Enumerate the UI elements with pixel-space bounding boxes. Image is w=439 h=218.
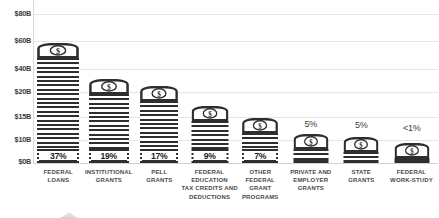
x-axis-label-institutional-grants: INSTITUTIONAL GRANTS [84, 168, 135, 184]
cropped-graphic-artifact [60, 211, 78, 218]
y-axis-tick: $10B [15, 136, 31, 144]
x-label-line: PRIVATE AND [284, 168, 339, 176]
bill-stack [89, 94, 129, 149]
bar-value-label: 9% [191, 149, 228, 163]
bill-stack [37, 58, 79, 149]
svg-text:$: $ [259, 121, 263, 131]
bar-group-federal-work-study[interactable]: <1% $ [387, 0, 438, 164]
x-axis-label-private-and-employer-grants: PRIVATE AND EMPLOYER GRANTS [284, 168, 339, 193]
x-label-line: FEDERAL [235, 176, 286, 184]
bill-stack [293, 149, 328, 160]
y-axis-tick: $15B [15, 113, 31, 121]
x-label-line: FEDERAL [180, 168, 239, 176]
x-label-line: FEDERAL [33, 168, 84, 176]
bar-value-label: 5% [304, 119, 317, 129]
svg-text:$: $ [309, 137, 313, 147]
x-label-line: PROGRAMS [235, 193, 286, 201]
x-label-line: EMPLOYER [284, 176, 339, 184]
bar-value-label: 7% [242, 149, 278, 163]
bar-group-federal-education-tax-credits[interactable]: $ 9% [185, 0, 236, 164]
x-axis-labels: FEDERAL LOANS INSTITUTIONAL GRANTS PELL … [33, 168, 437, 214]
bill-stack [191, 121, 228, 149]
x-axis-label-other-federal-grant-programs: OTHER FEDERAL GRANT PROGRAMS [235, 168, 286, 201]
y-axis: $80B $60B $40B $20B $15B $10B $0B [0, 0, 33, 170]
bar-value-label: 17% [140, 149, 178, 163]
x-label-line: WORK-STUDY [384, 176, 439, 184]
y-axis-tick: $40B [15, 65, 31, 73]
banknote-dollar-icon: $ [191, 106, 228, 121]
bill-stack [140, 101, 178, 149]
svg-text:$: $ [208, 109, 212, 119]
bar-base-rule [394, 160, 429, 163]
svg-text:$: $ [56, 47, 60, 56]
bar-value-label: 37% [37, 149, 79, 163]
x-label-line: PELL [134, 168, 185, 176]
x-label-line: GRANTS [134, 176, 185, 184]
x-label-line: STATE [336, 168, 387, 176]
x-label-line: EDUCATION [180, 176, 239, 184]
y-axis-tick: $60B [15, 37, 31, 45]
x-label-line: GRANTS [284, 184, 339, 192]
y-axis-tick: $20B [15, 88, 31, 96]
x-axis-label-federal-work-study: FEDERAL WORK-STUDY [384, 168, 439, 184]
svg-text:$: $ [410, 146, 414, 156]
bar-group-pell-grants[interactable]: $ 17% [134, 0, 185, 164]
y-axis-tick: $0B [18, 158, 31, 166]
bar-group-private-and-employer-grants[interactable]: 5% $ [286, 0, 337, 164]
bar-series: $ 37% $ 19% [33, 0, 437, 164]
x-axis-label-federal-education-tax-credits: FEDERAL EDUCATION TAX CREDITS AND DEDUCT… [180, 168, 239, 201]
x-label-line: TAX CREDITS AND [180, 184, 239, 192]
bill-stack [344, 152, 379, 160]
x-axis-label-federal-loans: FEDERAL LOANS [33, 168, 84, 184]
banknote-dollar-icon: $ [344, 137, 379, 152]
bar-group-other-federal-grant-programs[interactable]: $ 7% [235, 0, 286, 164]
y-axis-tick: $80B [15, 10, 31, 18]
bar-base-rule [344, 160, 379, 163]
banknote-dollar-icon: $ [394, 143, 429, 158]
bar-group-federal-loans[interactable]: $ 37% [33, 0, 84, 164]
banknote-dollar-icon: $ [140, 86, 178, 101]
x-label-line: OTHER [235, 168, 286, 176]
x-label-line: GRANT [235, 184, 286, 192]
banknote-dollar-icon: $ [89, 79, 129, 94]
x-label-line: GRANTS [84, 176, 135, 184]
x-label-line: GRANTS [336, 176, 387, 184]
banknote-dollar-icon: $ [37, 43, 79, 58]
bar-value-label: 5% [355, 120, 368, 130]
svg-text:$: $ [107, 82, 111, 91]
bar-group-state-grants[interactable]: 5% $ [336, 0, 387, 164]
svg-text:$: $ [157, 89, 161, 98]
x-label-line: INSTITUTIONAL [84, 168, 135, 176]
bar-value-label: 19% [89, 149, 129, 163]
svg-text:$: $ [360, 140, 364, 150]
bar-value-label: <1% [403, 123, 421, 133]
x-label-line: DEDUCTIONS [180, 193, 239, 201]
bar-base-rule [293, 160, 328, 163]
x-label-line: FEDERAL [384, 168, 439, 176]
x-axis-label-state-grants: STATE GRANTS [336, 168, 387, 184]
bill-stack [242, 133, 278, 149]
bar-group-institutional-grants[interactable]: $ 19% [84, 0, 135, 164]
x-label-line: LOANS [33, 176, 84, 184]
banknote-dollar-icon: $ [293, 134, 328, 149]
x-axis-label-pell-grants: PELL GRANTS [134, 168, 185, 184]
banknote-dollar-icon: $ [242, 118, 278, 133]
